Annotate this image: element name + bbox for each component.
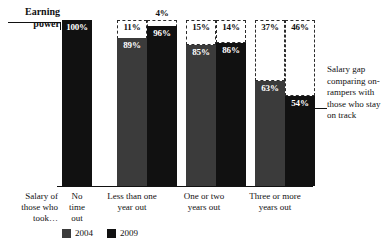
- gapbox-2009-one-or-two-years: 14%: [216, 20, 246, 43]
- bar-2004-three-or-more-years: 63%: [255, 81, 285, 186]
- bar-value-label: 96%: [147, 28, 177, 38]
- bar-value-label: 54%: [285, 98, 315, 108]
- x-axis-title: Salary of those who took…: [2, 191, 58, 224]
- y-axis-title: Earning power: [4, 6, 60, 30]
- x-tick-label-no-time-out: No time out: [62, 191, 92, 224]
- gap-value-label: 46%: [286, 22, 314, 32]
- x-tick-label-one-or-two-years-out: One or two years out: [178, 191, 230, 213]
- tick-line-1: Less than one: [105, 191, 159, 202]
- earning-power-leader-tick: [60, 22, 61, 30]
- gapbox-2004-one-or-two-years: 15%: [186, 20, 216, 45]
- bar-2009-three-or-more-years: 54%: [285, 96, 315, 186]
- x-tick-label-three-or-more-years-out: Three or more years out: [244, 191, 306, 213]
- plot-area: Earning power 100% 11% 89% 4% 96% 15% 85…: [0, 0, 384, 247]
- bar-2009-less-than-one-year: 96%: [147, 26, 177, 186]
- gapbox-2009-three-or-more-years: 46%: [285, 20, 315, 96]
- bar-value-label: 63%: [255, 83, 285, 93]
- gap-value-label: 15%: [187, 22, 215, 32]
- gap-value-label: 14%: [217, 22, 245, 32]
- legend: 2004 2009: [62, 228, 138, 238]
- bar-value-label: 100%: [62, 22, 92, 32]
- x-axis-title-line1: Salary of: [2, 191, 58, 202]
- bar-2009-no-time-out: 100%: [62, 20, 92, 186]
- tick-line-1: Three or more: [244, 191, 306, 202]
- legend-swatch-icon: [107, 229, 116, 238]
- legend-item-2009[interactable]: 2009: [107, 228, 138, 238]
- tick-line-1: One or two: [178, 191, 230, 202]
- bar-value-label: 89%: [117, 40, 147, 50]
- annotation-leader-line: [305, 108, 327, 109]
- legend-label: 2004: [75, 228, 93, 238]
- gap-value-label: 37%: [256, 22, 284, 32]
- x-axis-title-line2: those who: [2, 202, 58, 213]
- y-axis-title-line2: power: [4, 18, 60, 30]
- earning-power-leader-line: [8, 22, 61, 23]
- bar-value-label: 86%: [216, 45, 246, 55]
- bar-2004-less-than-one-year: 89%: [117, 38, 147, 186]
- legend-label: 2009: [120, 228, 138, 238]
- x-axis-title-line3: took…: [2, 213, 58, 224]
- y-axis-title-line1: Earning: [4, 6, 60, 18]
- x-tick-label-less-than-one-year-out: Less than one year out: [105, 191, 159, 213]
- bar-2009-one-or-two-years: 86%: [216, 43, 246, 186]
- tick-line-2: years out: [244, 202, 306, 213]
- gap-value-label: 4%: [148, 8, 176, 18]
- bar-value-label: 85%: [186, 47, 216, 57]
- gap-value-label: 11%: [118, 22, 146, 32]
- gapbox-2004-less-than-one-year: 11%: [117, 20, 147, 39]
- salary-gap-annotation: Salary gap comparing on-rampers with tho…: [327, 64, 383, 122]
- tick-line-2: year out: [105, 202, 159, 213]
- bar-2004-one-or-two-years: 85%: [186, 45, 216, 186]
- gapbox-2004-three-or-more-years: 37%: [255, 20, 285, 81]
- tick-line-2: years out: [178, 202, 230, 213]
- tick-line-3: out: [62, 213, 92, 224]
- tick-line-1: No: [62, 191, 92, 202]
- tick-line-2: time: [62, 202, 92, 213]
- x-axis-line: [57, 186, 313, 187]
- earning-power-bar-chart: Earning power 100% 11% 89% 4% 96% 15% 85…: [0, 0, 384, 247]
- legend-swatch-icon: [62, 229, 71, 238]
- legend-item-2004[interactable]: 2004: [62, 228, 93, 238]
